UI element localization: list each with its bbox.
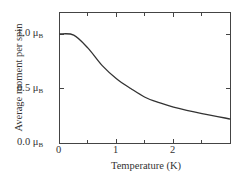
y-axis-label: Average moment per spin bbox=[13, 18, 24, 138]
y-tick-label-0.0: 0.0 μB bbox=[17, 136, 43, 149]
ticks bbox=[60, 13, 230, 143]
x-tick-label-2: 2 bbox=[170, 144, 175, 155]
plot-frame bbox=[60, 13, 231, 144]
x-tick-label-0: 0 bbox=[56, 144, 61, 155]
moment-curve bbox=[60, 34, 231, 119]
x-axis-label: Temperature (K) bbox=[111, 160, 181, 171]
x-tick-label-1: 1 bbox=[113, 144, 118, 155]
